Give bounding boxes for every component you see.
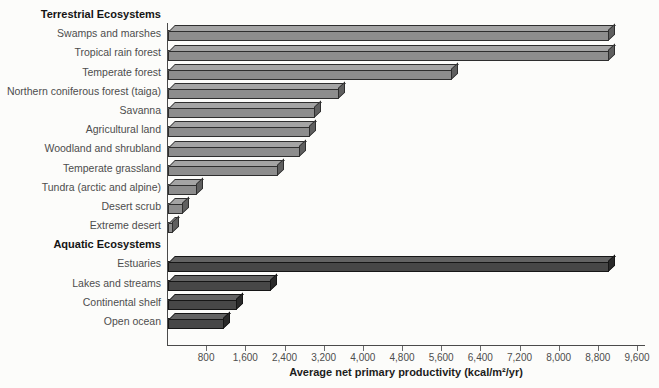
y-axis-line: [167, 23, 168, 345]
group-header: Terrestrial Ecosystems: [0, 5, 172, 24]
bar: [168, 126, 310, 137]
category-row: Continental shelf: [0, 293, 645, 312]
x-tick: [480, 346, 481, 351]
bar: [168, 299, 237, 310]
category-label: Temperate forest: [0, 63, 167, 82]
bar: [168, 165, 278, 176]
category-row: Desert scrub: [0, 197, 645, 216]
group-header-row: Aquatic Ecosystems: [0, 235, 645, 254]
x-tick-label: 6,400: [468, 352, 493, 363]
bar: [168, 280, 271, 291]
category-label: Tropical rain forest: [0, 43, 167, 62]
bar: [168, 88, 339, 99]
x-axis-title: Average net primary productivity (kcal/m…: [167, 366, 645, 378]
x-tick: [206, 346, 207, 351]
x-tick-label: 4,000: [350, 352, 375, 363]
x-tick-label: 8,000: [546, 352, 571, 363]
x-tick: [402, 346, 403, 351]
x-axis-line: [167, 345, 645, 346]
category-row: Swamps and marshes: [0, 24, 645, 43]
x-tick-label: 5,600: [429, 352, 454, 363]
x-tick: [559, 346, 560, 351]
category-row: Temperate forest: [0, 63, 645, 82]
bar-track: [167, 101, 645, 120]
bar-track: [167, 254, 645, 273]
category-row: Tropical rain forest: [0, 43, 645, 62]
x-tick: [363, 346, 364, 351]
category-label: Desert scrub: [0, 197, 167, 216]
bar-track: [167, 312, 645, 331]
x-tick: [324, 346, 325, 351]
category-label: Extreme desert: [0, 216, 167, 235]
bar: [168, 30, 609, 41]
category-row: Extreme desert: [0, 216, 645, 235]
category-label: Northern coniferous forest (taiga): [0, 82, 167, 101]
group-header-row: Terrestrial Ecosystems: [0, 5, 645, 24]
bar-track: [172, 5, 645, 24]
bar-track: [167, 197, 645, 216]
chart: Terrestrial EcosystemsSwamps and marshes…: [0, 0, 659, 388]
category-label: Savanna: [0, 101, 167, 120]
category-label: Swamps and marshes: [0, 24, 167, 43]
category-row: Northern coniferous forest (taiga): [0, 82, 645, 101]
category-label: Temperate grassland: [0, 159, 167, 178]
category-row: Agricultural land: [0, 120, 645, 139]
bar: [168, 50, 609, 61]
x-tick-label: 2,400: [272, 352, 297, 363]
bar-track: [167, 159, 645, 178]
category-row: Open ocean: [0, 312, 645, 331]
category-label: Lakes and streams: [0, 274, 167, 293]
category-label: Estuaries: [0, 254, 167, 273]
group-header: Aquatic Ecosystems: [0, 235, 172, 254]
bar-track: [167, 178, 645, 197]
category-label: Continental shelf: [0, 293, 167, 312]
category-row: Savanna: [0, 101, 645, 120]
bar-track: [167, 82, 645, 101]
category-rows: Terrestrial EcosystemsSwamps and marshes…: [0, 5, 645, 331]
bar-track: [167, 274, 645, 293]
x-tick: [520, 346, 521, 351]
x-tick-label: 7,200: [507, 352, 532, 363]
bar-track: [167, 293, 645, 312]
category-row: Lakes and streams: [0, 274, 645, 293]
bar-track: [167, 63, 645, 82]
x-tick: [285, 346, 286, 351]
bar: [168, 203, 183, 214]
category-row: Temperate grassland: [0, 159, 645, 178]
bar: [168, 318, 224, 329]
x-tick-label: 4,800: [389, 352, 414, 363]
x-tick-label: 1,600: [233, 352, 258, 363]
bar: [168, 184, 197, 195]
bar-track: [167, 139, 645, 158]
bar: [168, 146, 300, 157]
category-row: Estuaries: [0, 254, 645, 273]
bar: [168, 222, 173, 233]
bar-track: [167, 216, 645, 235]
x-tick-label: 3,200: [311, 352, 336, 363]
x-tick: [637, 346, 638, 351]
x-tick-label: 9,600: [624, 352, 649, 363]
bar: [168, 261, 609, 272]
category-row: Woodland and shrubland: [0, 139, 645, 158]
bar-track: [167, 24, 645, 43]
category-label: Agricultural land: [0, 120, 167, 139]
x-tick: [598, 346, 599, 351]
bar: [168, 107, 315, 118]
category-label: Open ocean: [0, 312, 167, 331]
x-tick-label: 800: [198, 352, 215, 363]
bar: [168, 69, 452, 80]
bar-track: [167, 43, 645, 62]
bar-track: [167, 120, 645, 139]
category-label: Tundra (arctic and alpine): [0, 178, 167, 197]
category-row: Tundra (arctic and alpine): [0, 178, 645, 197]
x-tick-label: 8,800: [585, 352, 610, 363]
x-tick: [245, 346, 246, 351]
category-label: Woodland and shrubland: [0, 139, 167, 158]
bar-track: [172, 235, 645, 254]
x-tick: [441, 346, 442, 351]
